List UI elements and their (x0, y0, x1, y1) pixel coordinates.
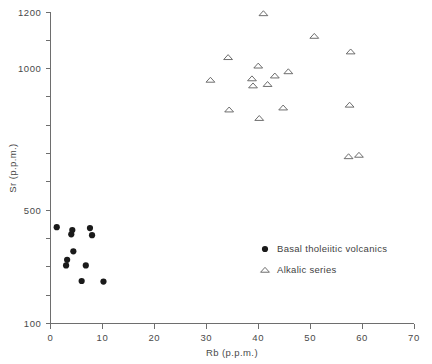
x-tick-label: 70 (408, 332, 420, 343)
legend-marker-open-triangle (261, 267, 270, 272)
data-point-filled-circle (54, 224, 60, 230)
y-axis-ticks (46, 12, 51, 324)
scatter-plot-figure: 10050010001200 010203040506070 Rb (p.p.m… (0, 0, 432, 364)
y-tick-label: 100 (24, 318, 42, 329)
series-basal-tholeiitic-volcanics (54, 224, 107, 285)
data-point-open-triangle (263, 82, 272, 87)
data-point-open-triangle (270, 73, 279, 78)
data-point-filled-circle (64, 257, 70, 263)
plot-canvas: 10050010001200 010203040506070 Rb (p.p.m… (0, 0, 432, 364)
data-point-filled-circle (70, 248, 76, 254)
data-point-open-triangle (345, 102, 354, 107)
data-point-filled-circle (100, 278, 106, 284)
y-axis-title: Sr (p.p.m.) (7, 143, 18, 192)
x-tick-label: 40 (252, 332, 264, 343)
data-point-open-triangle (279, 105, 288, 110)
x-axis-ticks (51, 324, 415, 329)
x-tick-label: 0 (48, 332, 54, 343)
x-tick-label: 20 (148, 332, 160, 343)
data-point-open-triangle (259, 11, 268, 16)
x-tick-label: 50 (304, 332, 316, 343)
legend-label: Basal tholeiitic volcanics (277, 243, 387, 254)
data-point-filled-circle (83, 262, 89, 268)
y-axis-tick-labels: 10050010001200 (18, 7, 42, 330)
data-point-open-triangle (248, 76, 257, 81)
legend-marker-filled-circle (262, 246, 268, 252)
x-axis-tick-labels: 010203040506070 (48, 332, 420, 343)
data-point-open-triangle (355, 152, 364, 157)
data-point-filled-circle (87, 225, 93, 231)
legend-label: Alkalic series (277, 264, 337, 275)
data-point-filled-circle (89, 232, 95, 238)
data-point-open-triangle (310, 33, 319, 38)
y-tick-label: 1000 (18, 63, 42, 74)
data-point-filled-circle (63, 262, 69, 268)
x-axis-title: Rb (p.p.m.) (206, 347, 258, 358)
data-point-open-triangle (344, 154, 353, 159)
x-tick-label: 10 (97, 332, 109, 343)
y-tick-label: 1200 (18, 7, 42, 18)
data-point-filled-circle (79, 278, 85, 284)
y-tick-label: 500 (24, 205, 42, 216)
data-point-open-triangle (284, 69, 293, 74)
data-point-open-triangle (206, 77, 215, 82)
x-tick-label: 30 (200, 332, 212, 343)
data-point-filled-circle (68, 231, 74, 237)
data-point-open-triangle (254, 63, 263, 68)
data-point-open-triangle (224, 55, 233, 60)
legend: Basal tholeiitic volcanicsAlkalic series (261, 243, 388, 275)
data-point-open-triangle (255, 116, 264, 121)
data-point-open-triangle (225, 107, 234, 112)
series-alkalic-series (206, 11, 363, 159)
x-tick-label: 60 (356, 332, 368, 343)
data-point-open-triangle (249, 83, 258, 88)
data-point-open-triangle (346, 49, 355, 54)
